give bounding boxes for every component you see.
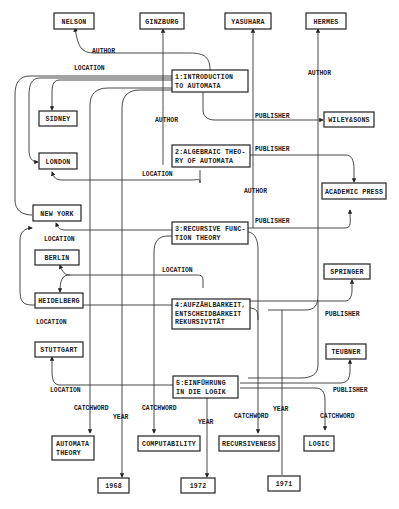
node-newyork[interactable]: NEW YORK <box>33 205 81 221</box>
semantic-network-diagram: AUTHOR LOCATION AUTHOR AUTHOR PUBLISHER … <box>0 0 399 509</box>
node-label: THEORY <box>56 450 81 457</box>
node-year-1968[interactable]: 1968 <box>98 478 129 493</box>
label-author-ginzburg: AUTHOR <box>155 117 178 124</box>
node-label: HEIDELBERG <box>38 298 80 305</box>
label-catchword-recursiveness: CATCHWORD <box>234 413 269 420</box>
node-book4[interactable]: 4:AUFZÄHLBARKEIT, ENTSCHEIDBARKEIT REKUR… <box>172 299 250 329</box>
label-author-yasuhara: AUTHOR <box>244 188 267 195</box>
node-label: REKURSIVITÄT <box>175 318 225 326</box>
node-label: 4:AUFZÄHLBARKEIT, <box>175 301 246 309</box>
node-label: NEW YORK <box>40 211 73 218</box>
node-recursiveness[interactable]: RECURSIVENESS <box>219 436 279 451</box>
label-location-berlin: LOCATION <box>162 267 193 274</box>
node-book3[interactable]: 3:RECURSIVE FUNC- TION THEORY <box>172 222 248 244</box>
label-author-hermes: AUTHOR <box>308 70 331 77</box>
node-automata-theory[interactable]: AUTOMATA THEORY <box>52 436 94 460</box>
node-year-1972[interactable]: 1972 <box>181 478 215 493</box>
node-label: TION THEORY <box>175 235 221 242</box>
label-location-5: LOCATION <box>50 387 81 394</box>
edge-book1-location <box>15 76 173 215</box>
label-location-3: LOCATION <box>44 236 75 243</box>
label-year-1972: YEAR <box>198 419 214 426</box>
node-label: 3:RECURSIVE FUNC- <box>175 226 246 233</box>
node-label: 1972 <box>190 483 207 490</box>
node-label: RECURSIVENESS <box>222 441 276 448</box>
edge-book5-teubner <box>240 360 350 383</box>
node-label: SIDNEY <box>46 116 71 123</box>
node-london[interactable]: LONDON <box>39 153 77 169</box>
node-academic[interactable]: ACADEMIC PRESS <box>322 183 386 199</box>
node-teubner[interactable]: TEUBNER <box>326 344 366 359</box>
node-hermes[interactable]: HERMES <box>306 13 346 29</box>
edge-automata-theory <box>90 88 183 433</box>
label-catchword-automata: CATCHWORD <box>74 405 109 412</box>
node-label: 2:ALGEBRAIC THEO- <box>175 149 246 156</box>
label-location-2: LOCATION <box>142 171 173 178</box>
node-label: 1968 <box>105 483 122 490</box>
node-label: WILEY&SONS <box>328 117 370 124</box>
edge-book4-heidelberg <box>60 275 70 292</box>
node-stuttgart[interactable]: STUTTGART <box>35 342 83 357</box>
label-year-1968: YEAR <box>113 414 129 421</box>
node-label: HERMES <box>314 19 339 26</box>
node-computability[interactable]: COMPUTABILITY <box>138 436 200 451</box>
node-springer[interactable]: SPRINGER <box>324 264 370 279</box>
label-year-1971: YEAR <box>273 406 289 413</box>
node-heidelberg[interactable]: HEIDELBERG <box>35 293 83 308</box>
edge-book4-springer <box>248 280 352 301</box>
node-label: RY OF AUTOMATA <box>175 158 233 165</box>
node-label: SPRINGER <box>330 269 363 276</box>
node-label: STUTTGART <box>40 347 77 354</box>
edge-book2-london <box>52 170 200 183</box>
node-label: TO AUTOMATA <box>175 83 221 90</box>
node-book1[interactable]: 1:INTRODUCTION TO AUTOMATA <box>172 70 248 92</box>
node-label: 1971 <box>276 481 293 488</box>
node-yasuhara[interactable]: YASUHARA <box>225 13 271 29</box>
node-label: 5:EINFÜHRUNG <box>176 379 226 387</box>
node-book5[interactable]: 5:EINFÜHRUNG IN DIE LOGIK <box>173 376 238 398</box>
edge-book1-sidney <box>52 80 173 110</box>
node-nelson[interactable]: NELSON <box>54 13 94 29</box>
node-ginzburg[interactable]: GINZBURG <box>140 13 184 29</box>
node-wiley[interactable]: WILEY&SONS <box>324 112 374 127</box>
node-label: GINZBURG <box>145 19 178 26</box>
edge-book2-academic <box>250 155 354 182</box>
node-logic[interactable]: LOGIC <box>304 436 334 451</box>
node-label: ACADEMIC PRESS <box>325 189 383 196</box>
label-publisher-3: PUBLISHER <box>255 218 290 225</box>
node-book2[interactable]: 2:ALGEBRAIC THEO- RY OF AUTOMATA <box>172 145 250 167</box>
edge-computability <box>154 236 175 433</box>
label-publisher-1: PUBLISHER <box>255 113 290 120</box>
edge-book3-newyork <box>56 223 175 230</box>
label-catchword-logic: CATCHWORD <box>320 413 355 420</box>
node-label: ENTSCHEIDBARKEIT <box>175 311 242 318</box>
label-author-nelson: AUTHOR <box>92 48 115 55</box>
node-berlin[interactable]: BERLIN <box>35 250 79 265</box>
edge-teubner-publisher <box>248 300 318 378</box>
node-sidney[interactable]: SIDNEY <box>39 111 77 126</box>
label-publisher-2: PUBLISHER <box>255 146 290 153</box>
label-location-4: LOCATION <box>36 319 67 326</box>
node-year-1971[interactable]: 1971 <box>268 476 300 491</box>
node-label: YASUHARA <box>231 19 264 26</box>
node-label: AUTOMATA <box>56 441 89 448</box>
label-publisher-5: PUBLISHER <box>333 387 368 394</box>
node-label: TEUBNER <box>331 349 360 356</box>
label-catchword-computability: CATCHWORD <box>142 405 177 412</box>
node-label: 1:INTRODUCTION <box>175 74 233 81</box>
node-label: IN DIE LOGIK <box>176 389 226 396</box>
node-label: LOGIC <box>309 441 330 448</box>
node-label: NELSON <box>62 19 87 26</box>
node-label: COMPUTABILITY <box>142 441 196 448</box>
label-publisher-4: PUBLISHER <box>325 311 360 318</box>
edge-book5-stuttgart <box>52 357 175 385</box>
node-label: BERLIN <box>45 255 70 262</box>
edge-recursiveness <box>248 232 258 433</box>
label-location-top: LOCATION <box>74 65 105 72</box>
node-label: LONDON <box>46 159 71 166</box>
